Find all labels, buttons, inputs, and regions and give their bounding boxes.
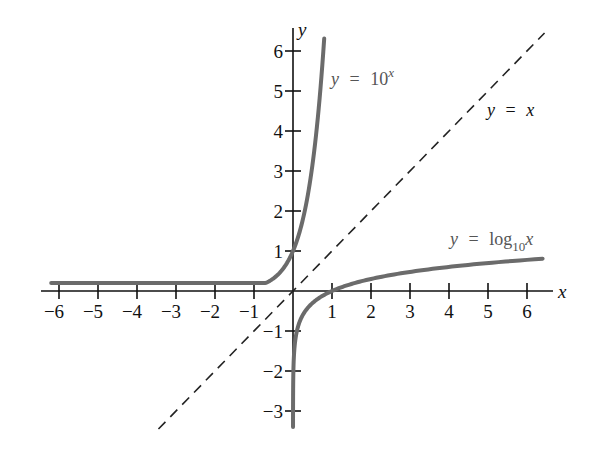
x-axis-ticks: −6−5−4−3−2−1123456 — [44, 283, 532, 322]
log-curve-label: y = log10x — [448, 229, 533, 254]
x-tick-label: 4 — [444, 301, 454, 322]
y-tick-label: −1 — [263, 321, 283, 342]
y-tick-label: −2 — [263, 361, 283, 382]
exp-curve-label: y = 10x — [329, 65, 394, 89]
x-tick-label: 1 — [327, 301, 337, 322]
y-tick-label: 6 — [274, 41, 284, 62]
y-tick-label: 2 — [274, 201, 284, 222]
x-tick-label: 6 — [522, 301, 532, 322]
log-label-lhs: y — [448, 229, 458, 249]
id-label-rhs: x — [525, 100, 534, 120]
x-tick-label: −6 — [44, 301, 64, 322]
x-axis-label: x — [557, 281, 567, 302]
function-plot: −6−5−4−3−2−1123456 −3−2−1123456 x y y = … — [0, 0, 601, 465]
exp-curve — [51, 39, 324, 283]
exp-label-base: 10 — [370, 69, 388, 89]
log-label-arg: x — [524, 229, 533, 249]
x-tick-label: −1 — [239, 301, 259, 322]
x-tick-label: 5 — [483, 301, 493, 322]
log-label-fn: log — [489, 229, 512, 249]
log-label-eq: = — [469, 229, 479, 249]
y-tick-label: 4 — [274, 121, 284, 142]
identity-line-label: y = x — [485, 100, 534, 120]
axes — [41, 28, 553, 428]
x-tick-label: 2 — [366, 301, 376, 322]
log-curve — [293, 259, 543, 427]
id-label-lhs: y — [485, 100, 495, 120]
log-label-subscript: 10 — [512, 239, 525, 254]
x-tick-label: −4 — [122, 301, 143, 322]
identity-line-dashed — [158, 33, 544, 429]
id-label-eq: = — [506, 100, 516, 120]
exp-label-superscript: x — [387, 65, 394, 80]
y-tick-label: 1 — [274, 241, 284, 262]
y-axis-label: y — [296, 19, 307, 40]
y-tick-label: −3 — [263, 401, 283, 422]
exp-label-eq: = — [350, 69, 360, 89]
x-tick-label: −2 — [200, 301, 220, 322]
x-tick-label: −5 — [83, 301, 103, 322]
y-tick-label: 3 — [274, 161, 284, 182]
y-tick-label: 5 — [274, 81, 284, 102]
x-tick-label: 3 — [405, 301, 415, 322]
exp-label-lhs: y — [329, 69, 339, 89]
x-tick-label: −3 — [161, 301, 181, 322]
